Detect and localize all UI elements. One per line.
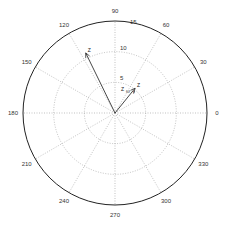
angle-spoke bbox=[69, 33, 115, 113]
radial-tick-label: 10 bbox=[120, 45, 127, 51]
angle-tick-label: 90 bbox=[112, 8, 119, 14]
angle-spoke bbox=[35, 113, 115, 159]
angle-spoke bbox=[115, 113, 161, 193]
annotation-label: Z bbox=[121, 86, 124, 92]
radial-tick-label: 5 bbox=[120, 75, 124, 81]
angle-tick-label: 330 bbox=[198, 161, 209, 167]
angle-tick-label: 240 bbox=[59, 198, 70, 204]
angle-tick-label: 120 bbox=[59, 22, 70, 28]
angle-tick-label: 60 bbox=[163, 22, 170, 28]
angle-spoke bbox=[115, 113, 195, 159]
angle-tick-label: 210 bbox=[22, 161, 33, 167]
polar-plot: 510150306090120150180210240270300330 ZZZ… bbox=[0, 0, 227, 229]
annotation-label: ω bbox=[126, 88, 130, 94]
angle-spoke bbox=[69, 113, 115, 193]
angle-tick-label: 150 bbox=[22, 59, 33, 65]
angle-tick-label: 30 bbox=[200, 59, 207, 65]
arrow-shaft bbox=[86, 53, 115, 113]
angle-tick-label: 300 bbox=[161, 198, 172, 204]
angle-tick-label: 270 bbox=[110, 212, 121, 218]
arrow-tip-label: Z bbox=[88, 47, 91, 53]
angle-spoke bbox=[35, 67, 115, 113]
radial-tick-label: 15 bbox=[130, 19, 137, 25]
angle-tick-label: 180 bbox=[8, 110, 19, 116]
angle-tick-label: 0 bbox=[215, 110, 219, 116]
arrow-tip-label: Z bbox=[137, 82, 140, 88]
arrows: ZZZωr bbox=[86, 47, 140, 113]
